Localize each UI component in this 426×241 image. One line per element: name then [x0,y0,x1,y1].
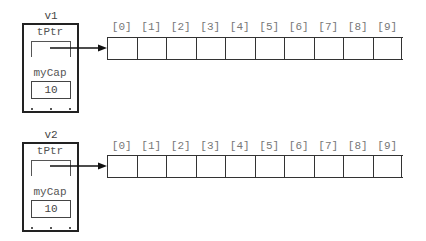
pointer-arrows [0,0,426,241]
arrow-icon [50,45,107,52]
arrow-icon [50,163,107,170]
